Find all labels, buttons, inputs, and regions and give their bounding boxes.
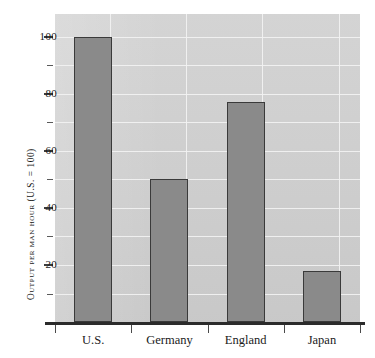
bar-chart-figure: 20406080100 U.S.GermanyEnglandJapan Outp…: [0, 0, 375, 358]
x-tick-label: U.S.: [55, 333, 131, 348]
bar-u-s: [74, 37, 112, 322]
bar-japan: [303, 271, 341, 322]
y-tick-label: 20: [17, 258, 57, 270]
x-tick: [360, 325, 361, 333]
x-tick-label: Germany: [131, 333, 207, 348]
x-tick-label: Japan: [284, 333, 360, 348]
y-tick-label: 100: [17, 30, 57, 42]
plot-area: [55, 14, 360, 322]
y-tick-minor: [47, 122, 53, 123]
x-tick: [131, 325, 132, 333]
y-tick-minor: [47, 236, 53, 237]
bar-germany: [150, 179, 188, 322]
y-tick-label: 60: [17, 144, 57, 156]
y-axis-title: Output per man hour (U.S. = 100): [26, 148, 36, 300]
y-tick-label: 80: [17, 87, 57, 99]
x-tick: [284, 325, 285, 333]
y-tick-minor: [47, 179, 53, 180]
x-tick-label: England: [208, 333, 284, 348]
x-tick: [55, 325, 56, 333]
x-tick: [208, 325, 209, 333]
y-tick-minor: [47, 294, 53, 295]
x-axis-line: [45, 322, 365, 325]
bar-england: [227, 102, 265, 322]
y-tick-minor: [47, 65, 53, 66]
clipped-caption-fragment: [8, 0, 148, 9]
y-tick-label: 40: [17, 201, 57, 213]
